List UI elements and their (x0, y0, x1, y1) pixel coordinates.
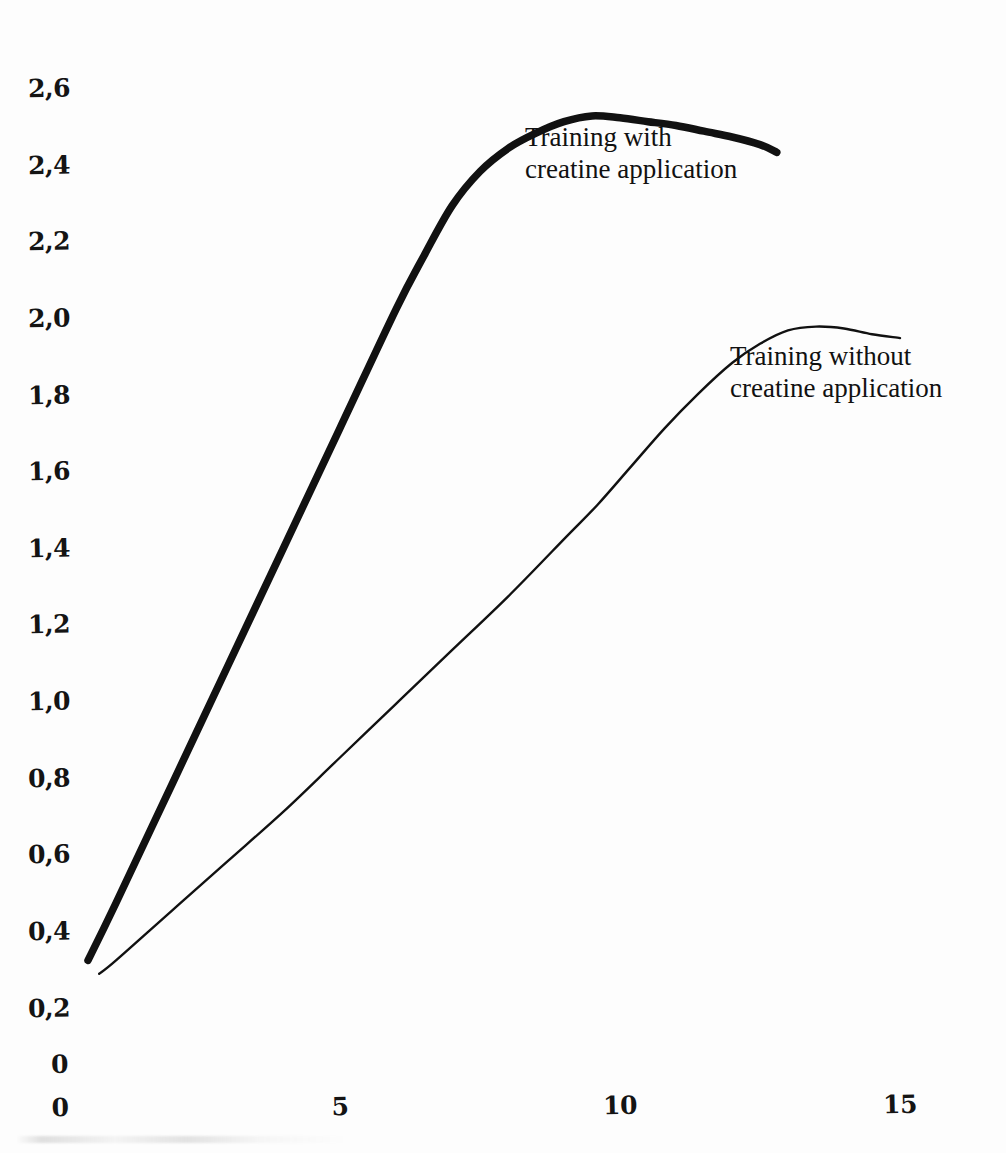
series-annotation-with-creatine-line1: Training with (525, 122, 672, 152)
y-tick-label-1-2: 1,2 (8, 609, 71, 639)
series-annotation-with-creatine: Training with creatine application (525, 122, 737, 186)
x-tick-label-15: 15 (870, 1089, 931, 1119)
chart-series-layer (0, 0, 1006, 1153)
y-tick-label-1-4: 1,4 (8, 533, 71, 563)
y-tick-label-0-2: 0,2 (8, 993, 71, 1023)
series-annotation-without-creatine-line2: creatine application (730, 373, 942, 405)
y-tick-label-0-8: 0,8 (8, 763, 71, 793)
y-tick-label-2-6: 2,6 (8, 73, 71, 103)
series-annotation-with-creatine-line2: creatine application (525, 154, 737, 186)
series-annotation-without-creatine: Training without creatine application (730, 341, 942, 405)
y-tick-label-0-4: 0,4 (8, 916, 71, 946)
y-tick-label-1-8: 1,8 (8, 380, 71, 410)
y-axis-origin-label: 0 (28, 1050, 69, 1080)
x-tick-label-0: 0 (30, 1092, 91, 1122)
x-tick-label-10: 10 (590, 1090, 651, 1120)
y-tick-label-2-0: 2,0 (8, 303, 71, 333)
y-tick-label-0-6: 0,6 (8, 839, 71, 869)
y-tick-label-2-4: 2,4 (8, 150, 71, 180)
y-tick-label-1-6: 1,6 (8, 456, 71, 486)
series-annotation-without-creatine-line1: Training without (730, 341, 911, 371)
x-tick-label-5: 5 (310, 1091, 371, 1121)
series-mask (80, 40, 1000, 1040)
y-tick-label-2-2: 2,2 (8, 226, 71, 256)
scan-artifact-smudge (16, 1136, 346, 1143)
chart-figure: 2,6 2,4 2,2 2,0 1,8 1,6 1,4 1,2 1,0 0,8 … (0, 0, 1006, 1153)
y-tick-label-1-0: 1,0 (8, 686, 71, 716)
